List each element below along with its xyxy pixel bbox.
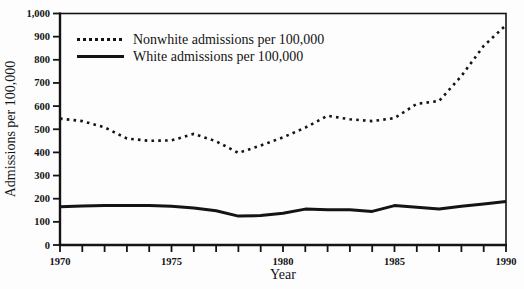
y-axis-tick-label: 600 bbox=[34, 101, 50, 112]
y-axis-tick-label: 1,000 bbox=[26, 8, 50, 19]
dotted-line-swatch bbox=[77, 38, 124, 41]
y-axis-tick-label: 700 bbox=[34, 77, 50, 88]
x-axis-tick-label: 1975 bbox=[161, 256, 182, 267]
series-solid-line bbox=[60, 202, 506, 217]
y-axis-tick-label: 900 bbox=[34, 31, 50, 42]
figure-page: 01002003004005006007008009001,0001970197… bbox=[0, 0, 524, 289]
x-axis-tick-label: 1970 bbox=[50, 256, 71, 267]
legend-label-nonwhite: Nonwhite admissions per 100,000 bbox=[133, 31, 324, 48]
legend-item-nonwhite: Nonwhite admissions per 100,000 bbox=[77, 31, 324, 48]
y-axis-tick-label: 500 bbox=[34, 124, 50, 135]
solid-line-swatch bbox=[77, 55, 124, 59]
y-axis-tick-label: 0 bbox=[45, 240, 50, 251]
legend-label-white: White admissions per 100,000 bbox=[133, 48, 303, 65]
y-axis-tick-label: 100 bbox=[34, 216, 50, 227]
legend-item-white: White admissions per 100,000 bbox=[77, 48, 324, 65]
y-axis-tick-label: 300 bbox=[34, 170, 50, 181]
y-axis-tick-label: 800 bbox=[34, 54, 50, 65]
y-axis-title: Admissions per 100,000 bbox=[3, 61, 19, 198]
y-axis-tick-label: 400 bbox=[34, 147, 50, 158]
y-axis-tick-label: 200 bbox=[34, 193, 50, 204]
x-axis-tick-label: 1985 bbox=[384, 256, 405, 267]
x-axis-title: Year bbox=[270, 267, 296, 283]
x-axis-tick-label: 1980 bbox=[273, 256, 294, 267]
x-axis-tick-label: 1990 bbox=[496, 256, 517, 267]
chart-legend: Nonwhite admissions per 100,000 White ad… bbox=[77, 31, 324, 65]
